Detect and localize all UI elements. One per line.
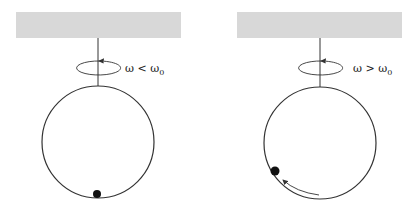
panel-right-fast-rotation: ω > ω0 — [237, 12, 402, 199]
bead-motion-arrow-icon — [283, 180, 319, 195]
bead — [271, 167, 280, 176]
rotation-arrowhead-icon — [98, 58, 104, 63]
bead-on-rotating-hoop-diagram: ω < ω0 ω > ω0 — [0, 0, 412, 211]
omega-condition-label: ω < ω0 — [125, 62, 164, 77]
omega-condition-label: ω > ω0 — [353, 62, 392, 77]
bead — [93, 190, 101, 198]
ceiling-support — [16, 12, 181, 38]
rotation-arrowhead-icon — [320, 58, 326, 63]
panel-left-slow-rotation: ω < ω0 — [16, 12, 181, 198]
rotation-direction-arrow-icon — [77, 61, 121, 75]
ceiling-support — [237, 12, 402, 38]
rotation-direction-arrow-icon — [299, 61, 343, 75]
hoop — [42, 86, 154, 198]
hoop — [264, 87, 376, 199]
